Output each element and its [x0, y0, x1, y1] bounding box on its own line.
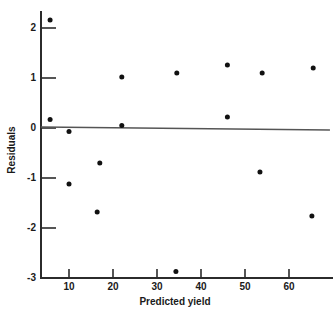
data-point	[67, 129, 72, 134]
x-axis-ticks	[69, 269, 289, 278]
data-point	[174, 71, 179, 76]
data-point	[309, 214, 314, 219]
zero-residual-line	[41, 127, 330, 130]
data-point	[311, 66, 316, 71]
y-axis-title: Residuals	[6, 126, 17, 173]
zero-reference-line	[41, 127, 330, 130]
data-point	[260, 71, 265, 76]
scatter-points	[48, 18, 316, 275]
x-tick-label-40: 40	[195, 282, 206, 292]
data-point	[119, 123, 124, 128]
data-point	[225, 115, 230, 120]
data-point	[67, 182, 72, 187]
x-tick-label-10: 10	[63, 282, 74, 292]
x-tick-label-50: 50	[239, 282, 250, 292]
y-tick-label-1: 1	[16, 73, 36, 83]
data-point	[119, 75, 124, 80]
chart-svg	[0, 0, 334, 316]
data-point	[48, 117, 53, 122]
y-tick-label-0: 0	[16, 123, 36, 133]
y-tick-label-2: 2	[16, 23, 36, 33]
data-point	[257, 170, 262, 175]
x-tick-label-30: 30	[151, 282, 162, 292]
plot-canvas	[0, 0, 334, 316]
data-point	[225, 63, 230, 68]
y-axis-ticks	[41, 28, 56, 228]
data-point	[97, 161, 102, 166]
x-tick-label-60: 60	[283, 282, 294, 292]
x-axis-title: Predicted yield	[139, 296, 210, 307]
data-point	[173, 269, 178, 274]
axis-lines	[40, 11, 333, 279]
y-tick-label--3: -3	[16, 273, 36, 283]
data-point	[95, 210, 100, 215]
data-point	[48, 18, 53, 23]
y-tick-label--1: -1	[16, 173, 36, 183]
x-tick-label-20: 20	[107, 282, 118, 292]
y-tick-label--2: -2	[16, 223, 36, 233]
residual-plot-figure: -3-2-1012 102030405060 Predicted yield R…	[0, 0, 334, 316]
